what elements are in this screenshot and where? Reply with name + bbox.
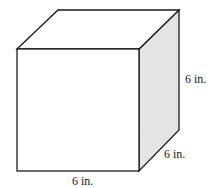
height-dimension-label: 6 in. bbox=[185, 73, 206, 85]
width-dimension-label: 6 in. bbox=[72, 175, 93, 187]
depth-dimension-label: 6 in. bbox=[164, 148, 185, 160]
cube-front-face bbox=[17, 49, 139, 171]
cube-diagram: 6 in. 6 in. 6 in. bbox=[0, 0, 217, 188]
